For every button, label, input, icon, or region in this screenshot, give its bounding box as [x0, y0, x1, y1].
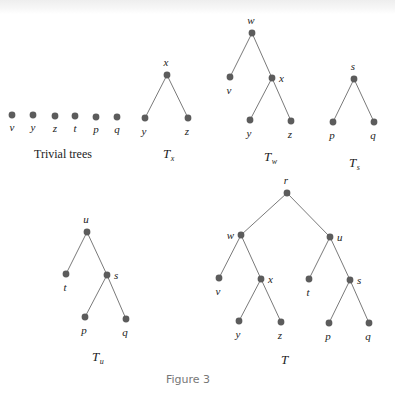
node-s — [351, 76, 358, 83]
node-label: r — [284, 174, 289, 186]
node-label: z — [277, 329, 283, 341]
node-q — [114, 114, 121, 121]
trees-group: xyzTxwvxyzTwspqTsutspqTurwuvxtsyzpqT — [63, 14, 378, 367]
tree-name-subscript: x — [170, 154, 175, 163]
node-q — [371, 119, 378, 126]
node-s — [347, 277, 354, 284]
tree-Tu: utspqTu — [63, 213, 130, 366]
trivial-trees-caption: Trivial trees — [34, 147, 92, 161]
node-z — [288, 118, 295, 125]
node-w — [238, 232, 245, 239]
edge-s-q — [354, 79, 374, 122]
tree-diagram-canvas: vyztpq Trivial trees xyzTxwvxyzTwspqTsut… — [0, 0, 395, 396]
tree-name-subscript: w — [272, 157, 278, 166]
edge-s-p — [85, 275, 107, 317]
node-label: p — [328, 129, 335, 141]
figure-caption: Figure 3 — [166, 373, 210, 386]
node-label: s — [351, 60, 355, 72]
node-label: v — [216, 285, 221, 297]
edge-w-v — [219, 235, 241, 278]
edge-w-x — [252, 33, 272, 78]
node-label: x — [267, 273, 273, 285]
tree-Tx: xyzTx — [141, 56, 192, 163]
edge-u-s — [330, 237, 350, 280]
node-v — [9, 112, 16, 119]
node-w — [249, 30, 256, 37]
edge-s-q — [107, 275, 126, 319]
node-label: y — [235, 328, 241, 340]
node-z — [52, 113, 59, 120]
node-label: t — [63, 281, 67, 293]
node-label: y — [141, 125, 147, 137]
edge-u-t — [309, 237, 330, 279]
edge-x-z — [167, 75, 188, 118]
node-t — [72, 113, 79, 120]
node-label: y — [246, 127, 252, 139]
node-label: p — [324, 330, 331, 342]
node-v — [227, 74, 234, 81]
node-y — [142, 115, 149, 122]
node-v — [216, 275, 223, 282]
edge-x-z — [272, 78, 291, 121]
node-r — [284, 190, 291, 197]
edge-s-p — [333, 79, 354, 122]
node-label: p — [80, 324, 87, 336]
node-u — [327, 234, 334, 241]
node-s — [104, 272, 111, 279]
tree-T: rwuvxtsyzpqT — [216, 174, 373, 367]
tree-name: Tu — [92, 349, 104, 366]
node-x — [269, 75, 276, 82]
node-label: v — [10, 121, 15, 133]
edge-x-y — [145, 75, 167, 118]
edge-s-p — [329, 280, 350, 323]
node-label: u — [337, 231, 343, 243]
node-label: u — [83, 213, 89, 225]
edge-x-y — [239, 279, 261, 321]
node-label: z — [287, 128, 293, 140]
node-label: t — [73, 122, 77, 134]
node-label: z — [184, 125, 190, 137]
node-y — [247, 117, 254, 124]
edge-u-s — [87, 232, 107, 275]
node-label: x — [163, 56, 169, 68]
tree-Tw: wvxyzTw — [227, 14, 295, 166]
node-q — [123, 316, 130, 323]
edge-s-q — [350, 280, 369, 323]
node-p — [82, 314, 89, 321]
node-label: x — [278, 72, 284, 84]
edge-x-y — [250, 78, 272, 120]
node-label: v — [227, 84, 232, 96]
edge-w-v — [230, 33, 252, 77]
edge-w-x — [241, 235, 261, 279]
node-p — [330, 119, 337, 126]
edge-x-z — [261, 279, 281, 322]
node-q — [366, 320, 373, 327]
trivial-trees-group: vyztpq — [9, 112, 121, 135]
edge-r-u — [287, 193, 330, 237]
tree-Ts: spqTs — [328, 60, 377, 172]
node-label: s — [114, 269, 118, 281]
node-t — [63, 271, 70, 278]
node-label: t — [306, 286, 310, 298]
node-z — [185, 115, 192, 122]
node-label: z — [52, 122, 58, 134]
node-label: w — [227, 229, 235, 241]
node-y — [236, 318, 243, 325]
node-label: s — [357, 274, 361, 286]
edge-u-t — [66, 232, 87, 274]
node-label: q — [122, 326, 128, 338]
node-t — [306, 276, 313, 283]
node-p — [326, 320, 333, 327]
node-label: y — [30, 121, 36, 133]
node-label: q — [365, 330, 371, 342]
tree-name: T — [281, 352, 289, 367]
node-z — [278, 319, 285, 326]
tree-name: Tw — [264, 149, 278, 166]
tree-name-subscript: u — [100, 357, 104, 366]
node-p — [93, 114, 100, 121]
edge-r-w — [241, 193, 287, 235]
tree-name-subscript: s — [357, 163, 360, 172]
node-label: q — [114, 123, 120, 135]
node-label: q — [370, 129, 376, 141]
node-u — [84, 229, 91, 236]
